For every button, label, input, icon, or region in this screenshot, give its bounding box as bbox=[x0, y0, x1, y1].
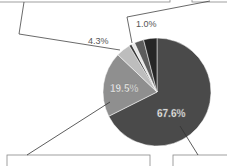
callout-box-top-left bbox=[0, 0, 170, 2]
leader-line-19-5 bbox=[27, 102, 110, 155]
callout-box-bottom-right bbox=[173, 155, 227, 166]
callout-box-bottom-left bbox=[7, 155, 150, 166]
label-1-0: 1.0% bbox=[136, 19, 157, 29]
label-19-5: 19.5% bbox=[110, 83, 138, 94]
label-4-3: 4.3% bbox=[88, 36, 109, 46]
label-67-6: 67.6% bbox=[157, 108, 185, 119]
pie-chart: 4.3% 1.0% 19.5% 67.6% bbox=[0, 0, 227, 166]
